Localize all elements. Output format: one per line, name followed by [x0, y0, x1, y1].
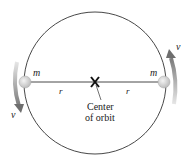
mass-right: [158, 76, 170, 88]
center-label-line2: of orbit: [85, 112, 115, 123]
radius-right-label: r: [126, 86, 130, 96]
velocity-left-label: v: [11, 109, 16, 120]
radius-left-label: r: [59, 86, 63, 96]
center-label-line1: Center: [87, 101, 114, 112]
mass-left-label: m: [33, 67, 40, 78]
mass-left: [19, 76, 31, 88]
mass-right-label: m: [150, 67, 157, 78]
velocity-arrow-right-icon: [166, 49, 176, 104]
velocity-right-label: v: [176, 41, 181, 52]
orbit-diagram: m m r r v v Center of orbit: [0, 0, 191, 168]
